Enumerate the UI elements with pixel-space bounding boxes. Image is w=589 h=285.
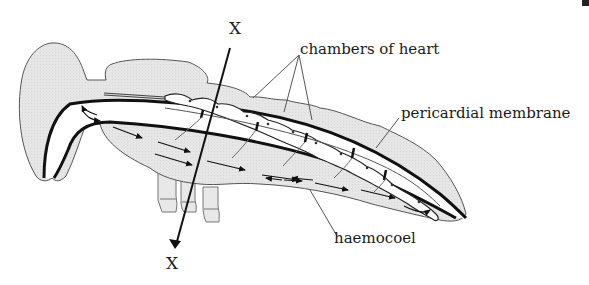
cropped-corner-glyph <box>582 0 589 6</box>
insect-circulation-diagram: X X chambers of heart pericardial membra… <box>0 0 589 285</box>
section-label-top: X <box>229 20 241 37</box>
diagram-canvas <box>0 0 589 285</box>
label-haemocoel: haemocoel <box>334 231 416 246</box>
label-pericardial-membrane: pericardial membrane <box>401 106 570 121</box>
label-chambers-of-heart: chambers of heart <box>300 42 439 57</box>
section-label-bottom: X <box>166 255 178 272</box>
